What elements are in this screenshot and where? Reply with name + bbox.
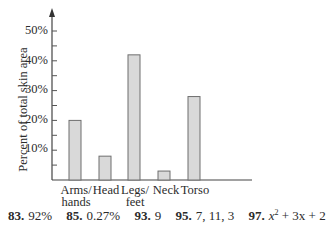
bar-chart [0, 0, 329, 200]
answer-83: 83.92% [8, 208, 52, 223]
bar-1 [99, 156, 111, 180]
category-label-torso: Torso [175, 184, 215, 196]
y-ticks [52, 31, 57, 165]
y-tick-10: 10% [14, 141, 48, 156]
answer-93: 93.9 [134, 208, 161, 223]
y-tick-30: 30% [14, 82, 48, 97]
bar-2 [128, 55, 140, 180]
bar-0 [69, 120, 81, 180]
y-tick-20: 20% [14, 112, 48, 127]
bar-3 [158, 171, 170, 180]
bars [69, 55, 200, 180]
y-axis-arrow-icon [49, 8, 55, 17]
bar-4 [188, 97, 200, 180]
answer-list: 83.92% 85.0.27% 93.9 95.7, 11, 3 97.x2 +… [8, 208, 329, 224]
answer-95: 95.7, 11, 3 [175, 208, 234, 223]
y-tick-50: 50% [14, 23, 48, 38]
answer-85: 85.0.27% [66, 208, 120, 223]
answer-97: 97.x2 + 3x + 2 [248, 208, 325, 223]
y-tick-40: 40% [14, 53, 48, 68]
